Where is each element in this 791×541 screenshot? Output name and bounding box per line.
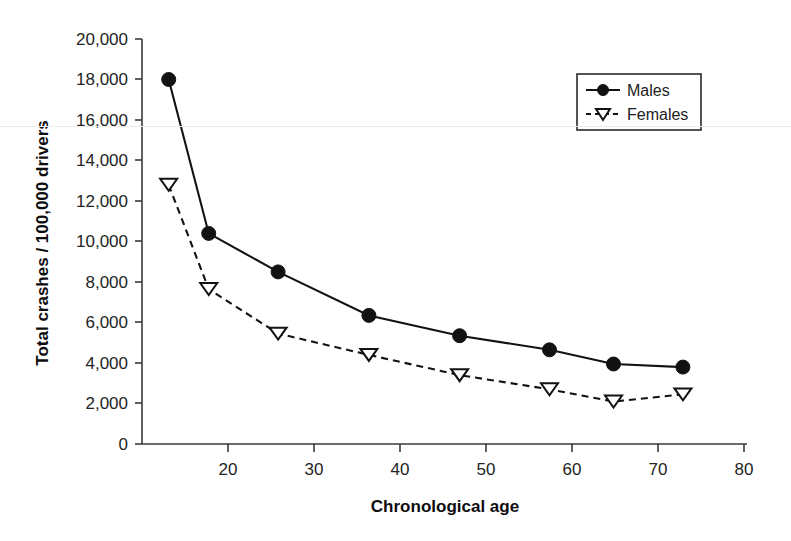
x-tick-marks xyxy=(228,444,744,452)
x-tick-label-40: 40 xyxy=(391,460,410,479)
data-point-females xyxy=(270,328,287,340)
data-point-females xyxy=(360,349,377,361)
filled-circle-icon xyxy=(598,85,609,96)
y-tick-label-18000: 18,000 xyxy=(76,70,128,89)
x-axis-title: Chronological age xyxy=(371,497,519,516)
series-markers-females xyxy=(160,179,691,408)
y-tick-label-14000: 14,000 xyxy=(76,151,128,170)
legend-label-females: Females xyxy=(627,106,688,123)
x-tick-label-30: 30 xyxy=(305,460,324,479)
x-tick-label-20: 20 xyxy=(219,460,238,479)
data-point-males xyxy=(607,357,621,371)
x-tick-label-70: 70 xyxy=(649,460,668,479)
x-tick-label-80: 80 xyxy=(735,460,754,479)
data-point-females xyxy=(541,383,558,395)
legend-label-males: Males xyxy=(627,82,670,99)
data-point-males xyxy=(543,343,557,357)
y-tick-label-4000: 4,000 xyxy=(85,354,128,373)
y-axis-title: Total crashes / 100,000 drivers xyxy=(33,120,52,365)
data-point-males xyxy=(202,226,216,240)
y-tick-label-20000: 20,000 xyxy=(76,30,128,49)
data-point-males xyxy=(271,265,285,279)
y-tick-label-12000: 12,000 xyxy=(76,192,128,211)
y-tick-label-10000: 10,000 xyxy=(76,232,128,251)
chart-figure: 20,000 18,000 16,000 14,000 12,000 10,00… xyxy=(0,0,791,541)
y-tick-label-6000: 6,000 xyxy=(85,313,128,332)
x-tick-label-60: 60 xyxy=(563,460,582,479)
data-point-males xyxy=(362,308,376,322)
series-line-females xyxy=(169,185,683,402)
data-point-males xyxy=(453,329,467,343)
y-tick-label-2000: 2,000 xyxy=(85,394,128,413)
y-tick-label-0: 0 xyxy=(119,435,128,454)
data-point-females xyxy=(160,179,177,191)
y-tick-marks xyxy=(135,39,142,444)
x-tick-label-50: 50 xyxy=(477,460,496,479)
data-point-males xyxy=(676,360,690,374)
y-tick-label-8000: 8,000 xyxy=(85,273,128,292)
data-point-males xyxy=(162,73,176,87)
data-point-females xyxy=(200,283,217,295)
y-tick-label-16000: 16,000 xyxy=(76,111,128,130)
chart-svg: 20,000 18,000 16,000 14,000 12,000 10,00… xyxy=(0,0,791,541)
legend: Males Females xyxy=(577,74,701,130)
